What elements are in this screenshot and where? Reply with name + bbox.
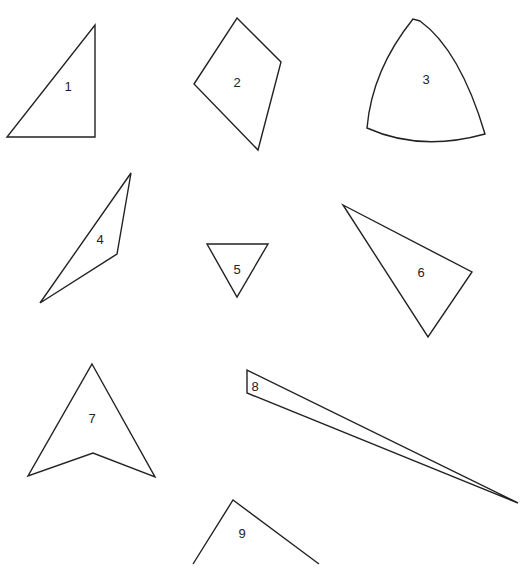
- shape-4: 4: [40, 173, 131, 303]
- shape-5: 5: [207, 244, 268, 297]
- right-triangle: [7, 25, 95, 137]
- obtuse-triangle: [40, 173, 131, 303]
- shape-label: 1: [64, 79, 71, 94]
- open-angle: [193, 500, 319, 564]
- shape-3: 3: [367, 19, 485, 142]
- shape-label: 2: [233, 75, 240, 90]
- shape-label: 7: [88, 411, 95, 426]
- shape-label: 3: [422, 72, 429, 87]
- shape-label: 5: [233, 262, 240, 277]
- thin-triangle: [247, 370, 518, 503]
- shape-7: 7: [28, 364, 155, 477]
- shape-6: 6: [343, 205, 472, 337]
- shape-label: 6: [417, 265, 424, 280]
- shape-2: 2: [194, 18, 281, 150]
- shape-1: 1: [7, 25, 95, 137]
- shape-8: 8: [247, 370, 518, 503]
- shape-label: 8: [251, 379, 258, 394]
- shape-9: 9: [193, 500, 319, 564]
- shape-label: 9: [238, 526, 245, 541]
- shapes-canvas: 1 2 3 4 5 6 7 8 9: [0, 0, 520, 572]
- scalene-triangle: [343, 205, 472, 337]
- shape-label: 4: [96, 232, 103, 247]
